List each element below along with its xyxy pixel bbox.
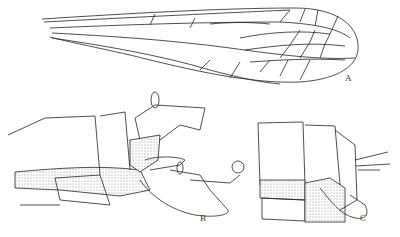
genitalia-b-drawing [8,92,244,216]
panel-label-b: B [200,213,206,223]
genitalia-c-drawing [258,122,390,222]
panel-label-c: C [360,213,366,223]
wing-drawing [42,8,358,84]
figure-canvas [0,0,400,237]
panel-label-a: A [345,73,352,83]
